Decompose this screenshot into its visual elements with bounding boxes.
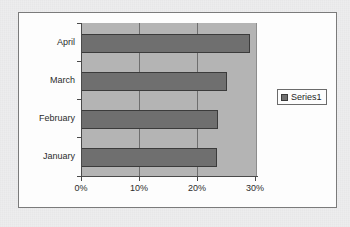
x-axis-tick-10: [139, 177, 140, 181]
legend-swatch-icon: [281, 94, 288, 101]
x-axis-label-20: 20%: [188, 183, 206, 193]
y-axis-line: [81, 23, 82, 177]
y-axis-label-february: February: [39, 113, 75, 123]
y-axis-tick-0: [77, 23, 81, 24]
chart-legend[interactable]: Series1: [277, 89, 327, 105]
x-axis-tick-20: [197, 177, 198, 181]
y-axis-label-march: March: [50, 75, 75, 85]
legend-entry-label: Series1: [291, 92, 322, 102]
x-axis-tick-30: [255, 177, 256, 181]
x-axis-label-30: 30%: [246, 183, 264, 193]
chart-container[interactable]: April March February January 0% 10% 20% …: [18, 12, 337, 208]
bar-february[interactable]: [81, 110, 218, 129]
plot-area-right-edge: [256, 23, 257, 176]
y-axis-tick-2: [77, 99, 81, 100]
y-axis-label-january: January: [43, 151, 75, 161]
x-axis-label-0: 0%: [74, 183, 87, 193]
x-axis-label-10: 10%: [130, 183, 148, 193]
bar-january[interactable]: [81, 148, 217, 167]
y-axis-tick-3: [77, 137, 81, 138]
plot-area: [81, 23, 257, 176]
bar-march[interactable]: [81, 72, 227, 91]
y-axis-label-april: April: [57, 37, 75, 47]
x-axis-tick-0: [81, 177, 82, 181]
x-axis-line: [81, 176, 258, 177]
y-axis-tick-1: [77, 61, 81, 62]
bar-april[interactable]: [81, 34, 250, 53]
